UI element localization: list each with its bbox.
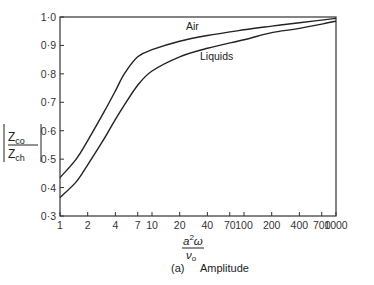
x-tick-label: 400 <box>291 219 309 231</box>
x-title-sub: o <box>192 254 197 263</box>
series-label-air: Air <box>186 20 199 32</box>
x-tick-label: 20 <box>174 219 186 231</box>
caption-text: Amplitude <box>200 262 249 274</box>
y-tick-label: 0·9 <box>41 39 56 51</box>
x-tick-label: 2 <box>85 219 91 231</box>
x-axis-title: a2ω νo <box>182 233 204 263</box>
x-axis: 1247102040701002004007001000 <box>57 212 348 231</box>
y-tick-label: 1·0 <box>41 11 56 23</box>
x-tick-label: 10 <box>146 219 158 231</box>
y-tick-label: 0·7 <box>41 96 56 108</box>
y-tick-label: 0·5 <box>41 153 56 165</box>
series-line-air <box>60 18 336 177</box>
y-axis-title: Zco Zch <box>4 124 41 163</box>
figure-caption: (a) Amplitude <box>171 262 249 274</box>
x-tick-label: 70 <box>224 219 236 231</box>
y-title-den-sub: ch <box>15 153 25 163</box>
svg-text:Zco: Zco <box>8 130 25 146</box>
caption-letter: (a) <box>171 262 184 274</box>
series-label-liquids: Liquids <box>200 50 233 62</box>
y-title-den: Z <box>8 147 15 161</box>
x-tick-label: 4 <box>112 219 118 231</box>
x-tick-label: 200 <box>263 219 281 231</box>
svg-text:νo: νo <box>186 249 197 263</box>
x-tick-label: 1000 <box>324 219 348 231</box>
y-tick-label: 0·3 <box>41 210 56 222</box>
svg-text:Zch: Zch <box>8 147 25 163</box>
series-lines <box>60 18 336 197</box>
y-tick-label: 0·6 <box>41 125 56 137</box>
x-tick-label: 7 <box>135 219 141 231</box>
svg-text:a2ω: a2ω <box>183 233 203 247</box>
x-tick-label: 100 <box>235 219 253 231</box>
series-labels: AirLiquids <box>186 20 233 62</box>
x-tick-label: 40 <box>202 219 214 231</box>
y-tick-label: 0·4 <box>41 182 56 194</box>
x-title-omega: ω <box>194 235 203 247</box>
y-title-num: Z <box>8 130 15 144</box>
x-tick-label: 1 <box>57 219 63 231</box>
series-line-liquids <box>60 21 336 197</box>
amplitude-ratio-chart: 0·30·40·50·60·70·80·91·0 124710204070100… <box>0 0 374 285</box>
y-tick-label: 0·8 <box>41 68 56 80</box>
